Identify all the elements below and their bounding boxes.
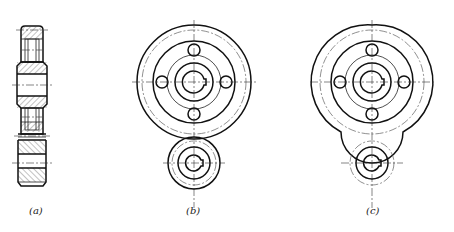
panel-b-front-view [132,20,256,208]
gear-drawing [0,0,454,232]
panel-b-label: (b) [186,205,200,216]
panel-c-label: (c) [366,205,379,216]
panel-a-section-view [12,26,52,186]
panel-c-front-view [310,20,434,208]
panel-a-label: (a) [29,205,43,216]
